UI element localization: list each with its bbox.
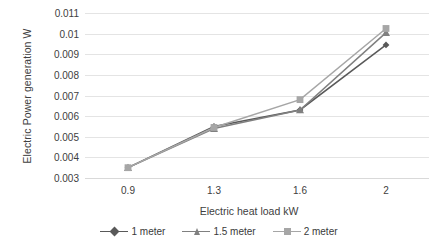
legend-label: 1 meter [131, 226, 165, 237]
y-tick-label: 0.006 [27, 111, 79, 122]
x-tick-label: 2 [383, 185, 389, 196]
y-tick-label: 0.008 [27, 69, 79, 80]
legend-label: 2 meter [304, 226, 338, 237]
legend-swatch-diamond-icon [100, 227, 128, 237]
series-2-meter [125, 25, 390, 171]
legend-entry[interactable]: 2 meter [273, 226, 338, 237]
x-axis-title: Electric heat load kW [60, 205, 438, 217]
y-tick-label: 0.003 [27, 173, 79, 184]
data-point-marker [383, 25, 390, 32]
x-tick-label: 1.6 [293, 185, 307, 196]
legend-entry[interactable]: 1.5 meter [182, 226, 255, 237]
x-tick-label: 0.9 [121, 185, 135, 196]
y-tick-label: 0.007 [27, 90, 79, 101]
plot-area: 0.0110.010.0090.0080.0070.0060.0050.0040… [85, 13, 429, 178]
chart-container: Electric Power generation W 0.0110.010.0… [0, 0, 438, 249]
chart-legend: 1 meter1.5 meter2 meter [0, 226, 438, 237]
legend-entry[interactable]: 1 meter [100, 226, 165, 237]
legend-swatch-square-icon [273, 227, 301, 237]
series-layer [85, 13, 429, 178]
y-tick-label: 0.009 [27, 49, 79, 60]
y-tick-label: 0.01 [27, 28, 79, 39]
data-point-marker [125, 164, 132, 171]
x-tick-label: 1.3 [207, 185, 221, 196]
series-line [128, 28, 386, 167]
y-tick-label: 0.005 [27, 131, 79, 142]
data-point-marker [297, 96, 304, 103]
x-axis-line [85, 178, 429, 179]
y-tick-label: 0.011 [27, 8, 79, 19]
series-line [128, 33, 386, 168]
legend-label: 1.5 meter [213, 226, 255, 237]
legend-swatch-triangle-icon [182, 227, 210, 237]
y-tick-label: 0.004 [27, 152, 79, 163]
data-point-marker [211, 124, 218, 131]
